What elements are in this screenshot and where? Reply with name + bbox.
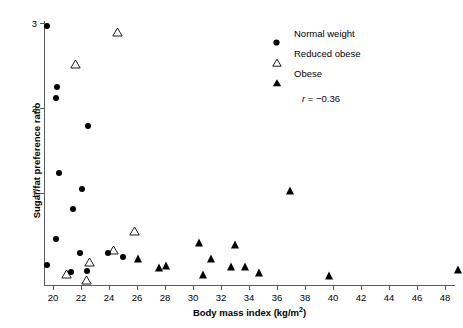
y-axis-title: Sugar/fat preference ratio xyxy=(31,61,42,261)
x-tick xyxy=(417,286,418,290)
data-point-obese xyxy=(227,263,235,271)
data-point-obese xyxy=(155,263,163,271)
x-tick xyxy=(389,286,390,290)
x-axis-title: Body mass index (kg/m2) xyxy=(44,307,455,318)
data-point-obese xyxy=(134,255,142,263)
data-point-obese xyxy=(231,240,239,248)
correlation-symbol: r xyxy=(302,93,305,104)
x-tick-label: 36 xyxy=(272,292,283,303)
data-point-normal-weight xyxy=(56,170,62,176)
x-tick xyxy=(193,286,194,290)
data-point-obese xyxy=(195,239,203,247)
x-tick xyxy=(137,286,138,290)
x-tick-label: 46 xyxy=(412,292,423,303)
x-tick-label: 32 xyxy=(216,292,227,303)
x-tick-label: 28 xyxy=(160,292,171,303)
x-tick xyxy=(165,286,166,290)
x-tick-label: 30 xyxy=(188,292,199,303)
x-tick xyxy=(305,286,306,290)
legend: Normal weight Reduced obese Obese r = −0… xyxy=(272,24,361,104)
data-point-normal-weight xyxy=(44,262,50,268)
data-point-normal-weight xyxy=(44,23,50,29)
x-axis-title-text: Body mass index (kg/m xyxy=(193,307,299,318)
y-tick-label: 3 xyxy=(26,18,37,29)
scatter-plot-figure: 20222426283032343638404244464850 123 Bod… xyxy=(0,0,463,328)
x-tick-label: 24 xyxy=(104,292,115,303)
data-point-obese xyxy=(255,268,263,276)
x-tick-label: 20 xyxy=(48,292,59,303)
data-point-normal-weight xyxy=(79,186,85,192)
data-point-normal-weight xyxy=(68,269,74,275)
data-point-obese xyxy=(162,262,170,270)
x-tick-label: 34 xyxy=(244,292,255,303)
data-point-obese xyxy=(325,272,333,280)
x-tick xyxy=(361,286,362,290)
x-tick xyxy=(109,286,110,290)
data-point-obese xyxy=(454,266,462,274)
x-tick-label: 26 xyxy=(132,292,143,303)
correlation-annotation: r = −0.36 xyxy=(302,93,361,104)
data-point-obese xyxy=(199,271,207,279)
data-point-normal-weight xyxy=(70,206,76,212)
data-point-normal-weight xyxy=(85,123,91,129)
x-tick-label: 38 xyxy=(300,292,311,303)
x-tick-label: 44 xyxy=(384,292,395,303)
y-tick xyxy=(40,23,44,24)
legend-entry-reduced-obese: Reduced obese xyxy=(272,44,361,64)
x-tick-label: 48 xyxy=(440,292,451,303)
legend-entry-normal-weight: Normal weight xyxy=(272,24,361,44)
data-point-obese xyxy=(207,255,215,263)
x-tick xyxy=(445,286,446,290)
data-point-normal-weight xyxy=(77,250,83,256)
x-tick xyxy=(53,286,54,290)
x-tick xyxy=(333,286,334,290)
data-point-obese xyxy=(286,187,294,195)
legend-label-normal-weight: Normal weight xyxy=(294,24,355,44)
legend-label-obese: Obese xyxy=(294,64,322,84)
correlation-value: = −0.36 xyxy=(308,93,340,104)
x-tick xyxy=(277,286,278,290)
x-tick-label: 42 xyxy=(356,292,367,303)
data-point-normal-weight xyxy=(84,268,90,274)
x-tick xyxy=(81,286,82,290)
filled-triangle-icon xyxy=(272,74,282,94)
data-point-normal-weight xyxy=(53,95,59,101)
x-tick-label: 40 xyxy=(328,292,339,303)
data-point-normal-weight xyxy=(54,84,60,90)
y-axis-line xyxy=(44,21,45,286)
data-point-obese xyxy=(241,263,249,271)
x-axis-title-tail: ) xyxy=(303,307,306,318)
x-tick-label: 22 xyxy=(76,292,87,303)
data-point-normal-weight xyxy=(105,250,111,256)
data-point-normal-weight xyxy=(53,236,59,242)
x-tick xyxy=(221,286,222,290)
x-tick xyxy=(249,286,250,290)
legend-entry-obese: Obese xyxy=(272,64,361,84)
data-point-normal-weight xyxy=(120,254,126,260)
legend-label-reduced-obese: Reduced obese xyxy=(294,44,361,64)
plot-area: 20222426283032343638404244464850 123 Bod… xyxy=(0,0,463,328)
